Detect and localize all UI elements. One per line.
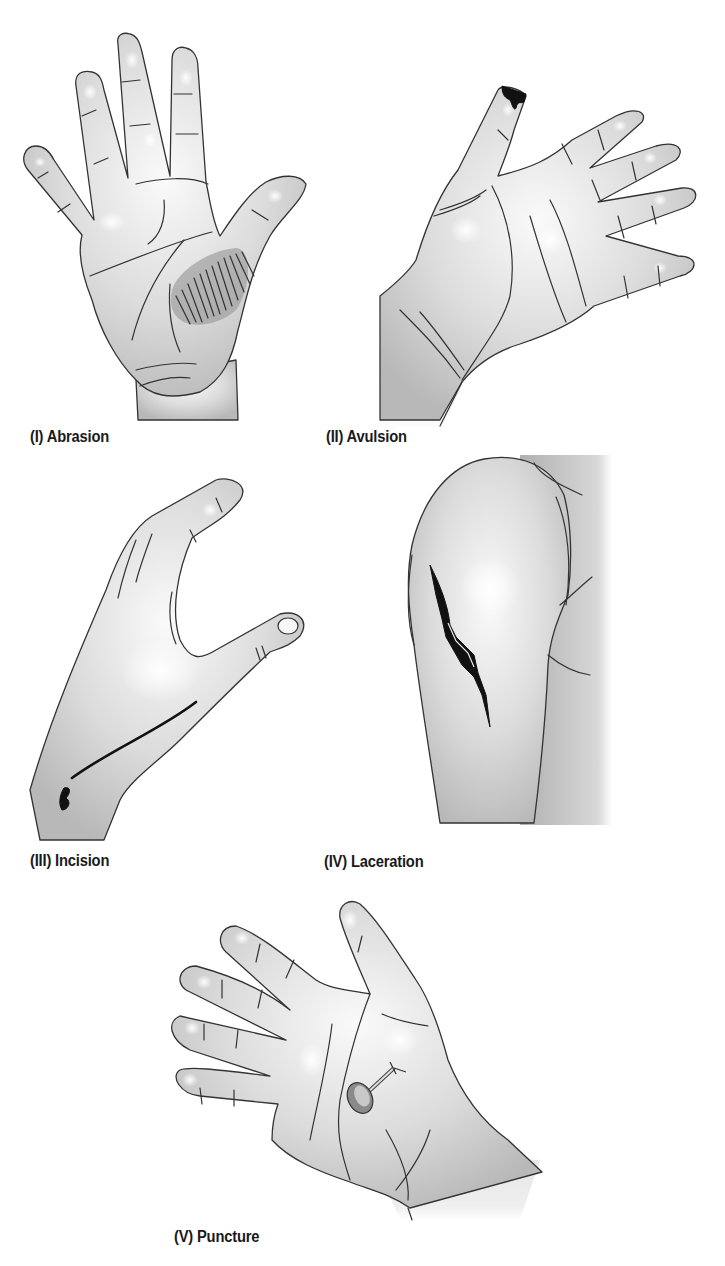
- panel-puncture: (V) Puncture: [160, 890, 560, 1220]
- label-abrasion: (I) Abrasion: [30, 428, 109, 446]
- laceration-shoulder-illustration: [400, 455, 725, 835]
- puncture-hand-illustration: [160, 890, 560, 1220]
- incision-hand-illustration: [20, 470, 320, 840]
- label-laceration: (IV) Laceration: [324, 853, 423, 871]
- panel-laceration: (IV) Laceration: [400, 455, 725, 835]
- label-puncture: (V) Puncture: [174, 1228, 259, 1246]
- panel-incision: (III) Incision: [20, 470, 320, 840]
- abrasion-hand-illustration: [0, 0, 360, 420]
- panel-abrasion: (I) Abrasion: [0, 0, 360, 420]
- label-incision: (III) Incision: [30, 852, 109, 870]
- panel-avulsion: (II) Avulsion: [380, 60, 725, 430]
- avulsion-hand-illustration: [380, 60, 725, 430]
- label-avulsion: (II) Avulsion: [326, 428, 407, 446]
